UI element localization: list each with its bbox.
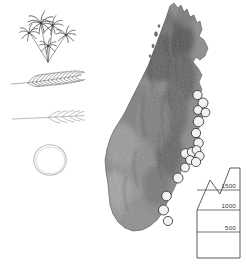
legend-label-500: 500	[225, 224, 236, 231]
elevation-legend: 1500 1000 500	[196, 166, 246, 261]
occurrence-marker	[193, 116, 203, 126]
occurrence-marker	[162, 191, 172, 201]
fruit-circle-icon	[26, 138, 74, 182]
branch-icon	[8, 104, 90, 132]
distribution-figure: 1500 1000 500	[0, 0, 246, 273]
occurrence-marker	[201, 108, 210, 117]
occurrence-marker	[191, 128, 200, 137]
occurrence-marker	[159, 205, 169, 215]
legend-label-1000: 1000	[221, 202, 236, 209]
occurrence-marker	[181, 163, 190, 172]
specimen-illustration-panel	[0, 0, 100, 190]
madagascar-map	[86, 0, 210, 268]
occurrence-marker	[173, 173, 183, 183]
occurrence-marker	[163, 216, 172, 225]
pinnate-leaf-icon	[8, 66, 90, 98]
palm-cluster-icon	[12, 6, 84, 64]
legend-label-1500: 1500	[221, 182, 236, 189]
